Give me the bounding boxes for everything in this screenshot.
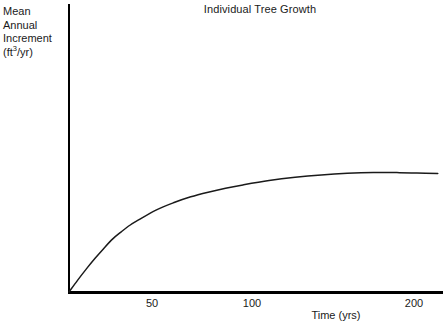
x-tick-label-50: 50 xyxy=(122,296,182,310)
mean-annual-increment-curve xyxy=(69,172,438,292)
plot-area xyxy=(0,0,445,334)
x-tick-label-100: 100 xyxy=(222,296,282,310)
x-axis-label: Time (yrs) xyxy=(291,308,381,322)
x-tick-label-200: 200 xyxy=(384,296,444,310)
chart-figure: Individual Tree Growth Mean Annual Incre… xyxy=(0,0,445,334)
